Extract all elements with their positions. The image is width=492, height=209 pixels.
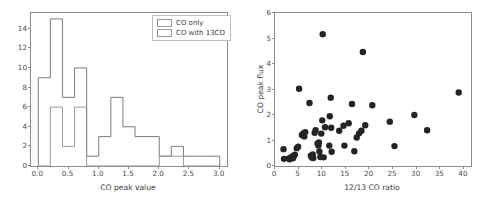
scatter-point xyxy=(327,113,333,119)
scatter-y-tick-mark xyxy=(272,63,275,64)
histogram-x-tick-label: 0.5 xyxy=(62,169,73,178)
histogram-y-tick-label: 6 xyxy=(14,102,27,111)
scatter-x-tick-mark xyxy=(321,166,322,169)
scatter-x-tick-label: 10 xyxy=(317,169,326,178)
histogram-y-tick-label: 14 xyxy=(14,23,27,32)
scatter-y-tick-label: 1 xyxy=(260,135,271,144)
histogram-y-tick-label: 12 xyxy=(14,43,27,52)
histogram-x-tick-mark xyxy=(98,166,99,169)
histogram-x-tick-mark xyxy=(158,166,159,169)
scatter-y-tick-mark xyxy=(272,140,275,141)
scatter-y-axis-title: CO peak flux xyxy=(256,64,265,113)
histogram-y-tick-label: 0 xyxy=(14,161,27,170)
histogram-y-tick-mark xyxy=(28,106,31,107)
scatter-x-tick-label: 20 xyxy=(364,169,373,178)
scatter-point xyxy=(387,118,393,124)
legend-item-co-with-13co: CO with 13CO xyxy=(157,29,225,37)
scatter-x-axis-title: 12/13 CO ratio xyxy=(344,183,400,192)
scatter-x-tick-label: 30 xyxy=(411,169,420,178)
histogram-x-tick-label: 1.5 xyxy=(122,169,133,178)
histogram-y-tick-label: 4 xyxy=(14,121,27,130)
scatter-point xyxy=(292,152,298,158)
scatter-y-tick-mark xyxy=(272,89,275,90)
scatter-point xyxy=(316,139,322,145)
histogram-y-tick-mark xyxy=(28,47,31,48)
scatter-y-tick-label: 0 xyxy=(260,161,271,170)
scatter-y-tick-label: 5 xyxy=(260,33,271,42)
histogram-x-axis-title: CO peak value xyxy=(100,183,155,192)
scatter-y-tick-label: 6 xyxy=(260,8,271,17)
scatter-x-tick-label: 35 xyxy=(435,169,444,178)
scatter-x-tick-mark xyxy=(416,166,417,169)
scatter-x-tick-label: 5 xyxy=(295,169,300,178)
legend-swatch-icon xyxy=(157,19,172,27)
histogram-panel: 02468101214 0.00.51.01.52.02.53.0 CO pea… xyxy=(0,0,246,209)
scatter-point xyxy=(319,117,325,123)
scatter-point xyxy=(358,128,364,134)
legend-label: CO with 13CO xyxy=(176,29,225,37)
scatter-x-tick-mark xyxy=(345,166,346,169)
scatter-point xyxy=(312,127,318,133)
legend-item-co-only: CO only xyxy=(157,19,225,27)
scatter-y-tick-mark xyxy=(272,12,275,13)
scatter-point xyxy=(456,89,462,95)
histogram-x-tick-label: 0.0 xyxy=(32,169,43,178)
scatter-y-tick-mark xyxy=(272,38,275,39)
scatter-point xyxy=(349,101,355,107)
scatter-point xyxy=(328,149,334,155)
scatter-x-tick-mark xyxy=(274,166,275,169)
scatter-point xyxy=(280,146,286,152)
scatter-point xyxy=(302,129,308,135)
scatter-point xyxy=(369,102,375,108)
scatter-x-tick-label: 0 xyxy=(272,169,277,178)
legend-label: CO only xyxy=(176,19,203,27)
scatter-point xyxy=(320,154,326,160)
scatter-point xyxy=(341,142,347,148)
histogram-y-tick-mark xyxy=(28,126,31,127)
histogram-y-tick-label: 8 xyxy=(14,82,27,91)
scatter-x-tick-mark xyxy=(463,166,464,169)
scatter-point xyxy=(318,130,324,136)
scatter-point xyxy=(328,94,334,100)
legend-swatch-icon xyxy=(157,29,172,37)
scatter-x-tick-mark xyxy=(439,166,440,169)
scatter-x-tick-mark xyxy=(392,166,393,169)
scatter-point xyxy=(326,142,332,148)
histogram-legend: CO only CO with 13CO xyxy=(152,15,231,41)
scatter-svg xyxy=(275,13,471,166)
scatter-x-tick-label: 25 xyxy=(387,169,396,178)
histogram-x-tick-label: 3.0 xyxy=(213,169,224,178)
scatter-x-tick-mark xyxy=(298,166,299,169)
scatter-point xyxy=(360,49,366,55)
histogram-y-tick-label: 2 xyxy=(14,141,27,150)
histogram-x-tick-mark xyxy=(37,166,38,169)
scatter-point xyxy=(362,122,368,128)
histogram-y-tick-mark xyxy=(28,28,31,29)
histogram-series-outline xyxy=(38,107,219,166)
scatter-x-tick-label: 15 xyxy=(340,169,349,178)
scatter-point xyxy=(411,112,417,118)
scatter-x-tick-label: 40 xyxy=(458,169,467,178)
scatter-point xyxy=(424,127,430,133)
scatter-point xyxy=(296,86,302,92)
histogram-x-tick-mark xyxy=(128,166,129,169)
histogram-x-tick-label: 2.0 xyxy=(153,169,164,178)
histogram-y-tick-mark xyxy=(28,145,31,146)
scatter-point xyxy=(336,128,342,134)
scatter-plot-area xyxy=(274,12,472,167)
histogram-y-tick-mark xyxy=(28,67,31,68)
scatter-point xyxy=(328,125,334,131)
histogram-y-tick-label: 10 xyxy=(14,62,27,71)
histogram-y-tick-mark xyxy=(28,165,31,166)
scatter-point xyxy=(306,100,312,106)
histogram-x-tick-label: 1.0 xyxy=(92,169,103,178)
scatter-point xyxy=(351,148,357,154)
scatter-y-tick-mark xyxy=(272,114,275,115)
scatter-point xyxy=(310,155,316,161)
scatter-point xyxy=(320,31,326,37)
scatter-point xyxy=(316,148,322,154)
scatter-point xyxy=(322,124,328,130)
histogram-x-tick-mark xyxy=(68,166,69,169)
histogram-x-tick-mark xyxy=(188,166,189,169)
histogram-x-tick-label: 2.5 xyxy=(183,169,194,178)
